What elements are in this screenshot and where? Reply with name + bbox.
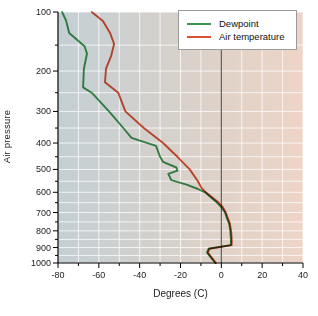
x-tick-label: -40: [133, 270, 146, 280]
air-temperature-legend-label: Air temperature: [219, 31, 284, 42]
x-tick-label: 40: [298, 270, 308, 280]
x-axis-title: Degrees (C): [58, 288, 303, 299]
x-tick-label: -60: [92, 270, 105, 280]
y-tick-label: 700: [36, 208, 51, 218]
y-tick-label: 1000: [31, 258, 51, 268]
y-tick-label: 400: [36, 138, 51, 148]
air-temperature-line-swatch: [187, 36, 211, 38]
x-tick-label: -80: [51, 270, 64, 280]
y-tick-label: 300: [36, 106, 51, 116]
x-tick-label: 0: [219, 270, 224, 280]
x-tick-label: -20: [174, 270, 187, 280]
dewpoint-legend-label: Dewpoint: [219, 18, 259, 29]
legend: Dewpoint Air temperature: [178, 10, 297, 50]
y-tick-label: 500: [36, 164, 51, 174]
sounding-chart-figure: 1002003004005006007008009001000-80-60-40…: [0, 0, 318, 316]
y-tick-label: 900: [36, 243, 51, 253]
y-tick-label: 800: [36, 226, 51, 236]
x-tick-label: 20: [257, 270, 267, 280]
legend-item-air-temperature: Air temperature: [187, 31, 290, 42]
y-tick-label: 200: [36, 66, 51, 76]
y-tick-label: 100: [36, 7, 51, 17]
y-tick-label: 600: [36, 187, 51, 197]
legend-item-dewpoint: Dewpoint: [187, 18, 290, 29]
y-axis-title: Air pressure: [1, 92, 12, 182]
dewpoint-line-swatch: [187, 23, 211, 25]
